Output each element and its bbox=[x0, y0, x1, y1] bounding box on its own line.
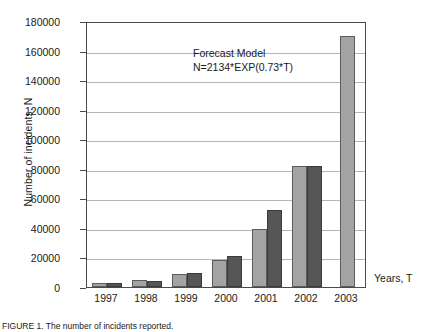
bar bbox=[292, 166, 307, 287]
bar bbox=[92, 283, 107, 287]
x-tick-label: 2003 bbox=[323, 292, 369, 304]
y-tick-label: 160000 bbox=[0, 46, 60, 58]
x-axis-title: Years, T bbox=[374, 272, 413, 284]
forecast-model-annotation: Forecast Model N=2134*EXP(0.73*T) bbox=[193, 46, 293, 74]
annotation-line-1: Forecast Model bbox=[193, 46, 293, 60]
bar bbox=[132, 280, 147, 287]
bar bbox=[267, 210, 282, 287]
bar bbox=[307, 166, 322, 287]
gridline bbox=[87, 200, 365, 201]
y-tick-label: 100000 bbox=[0, 134, 60, 146]
y-tick-label: 40000 bbox=[0, 223, 60, 235]
bar bbox=[212, 260, 227, 287]
gridline bbox=[87, 82, 365, 83]
bar bbox=[227, 256, 242, 287]
y-tick-label: 80000 bbox=[0, 164, 60, 176]
bar bbox=[172, 274, 187, 287]
y-tick-label: 60000 bbox=[0, 193, 60, 205]
figure-caption: FIGURE 1. The number of incidents report… bbox=[2, 321, 173, 331]
bar bbox=[147, 281, 162, 287]
figure-container: Number of incidents, N 02000040000600008… bbox=[0, 0, 435, 332]
y-tick-label: 140000 bbox=[0, 75, 60, 87]
y-tick-label: 0 bbox=[0, 282, 60, 294]
gridline bbox=[87, 141, 365, 142]
y-tick-label: 180000 bbox=[0, 16, 60, 28]
bar bbox=[107, 283, 122, 287]
bar bbox=[187, 273, 202, 287]
gridline bbox=[87, 171, 365, 172]
y-tick-mark bbox=[80, 288, 86, 289]
y-tick-label: 120000 bbox=[0, 105, 60, 117]
y-tick-label: 20000 bbox=[0, 252, 60, 264]
bar bbox=[252, 229, 267, 287]
gridline bbox=[87, 112, 365, 113]
gridline bbox=[87, 230, 365, 231]
bar bbox=[340, 36, 355, 287]
annotation-line-2: N=2134*EXP(0.73*T) bbox=[193, 60, 293, 74]
